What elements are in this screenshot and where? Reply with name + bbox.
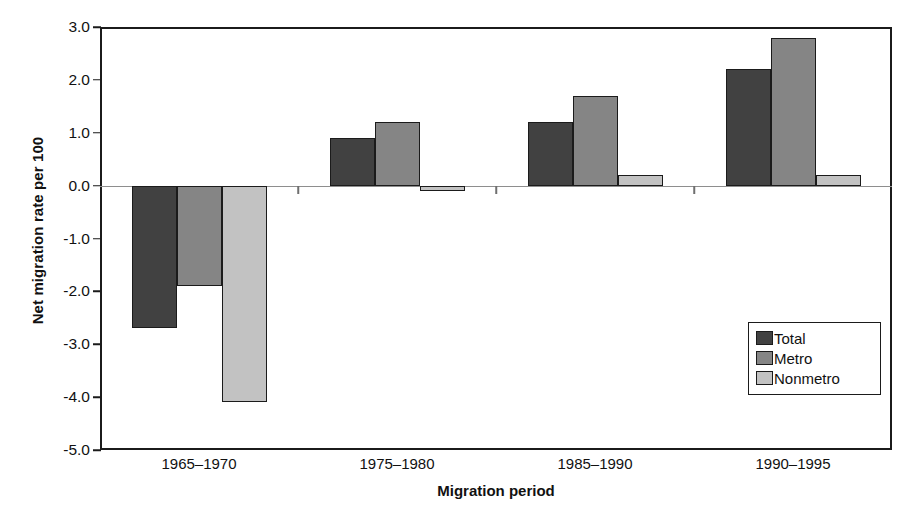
y-tick-label: 1.0	[30, 125, 90, 141]
x-axis-title: Migration period	[100, 482, 892, 499]
y-tick-mark	[93, 238, 101, 240]
x-tick-label: 1985–1990	[510, 455, 680, 472]
bar-total-2	[528, 122, 573, 185]
y-tick-label: -5.0	[30, 442, 90, 458]
y-tick-label: 3.0	[30, 19, 90, 35]
bar-nonmetro-0	[222, 186, 267, 403]
bar-metro-0	[177, 186, 222, 286]
legend-swatch-total	[756, 331, 773, 345]
y-tick-label: -3.0	[30, 337, 90, 353]
y-tick-mark	[93, 132, 101, 134]
x-tick-label: 1990–1995	[708, 455, 878, 472]
bar-metro-1	[375, 122, 420, 185]
y-tick-mark	[93, 344, 101, 346]
x-tick-mark	[297, 186, 299, 194]
legend: TotalMetroNonmetro	[748, 322, 881, 395]
bar-nonmetro-3	[816, 175, 861, 186]
y-tick-label: -2.0	[30, 284, 90, 300]
y-tick-mark	[93, 449, 101, 451]
legend-item: Nonmetro	[756, 368, 874, 388]
bar-nonmetro-1	[420, 186, 465, 191]
y-tick-label: 2.0	[30, 72, 90, 88]
y-tick-label: 0.0	[30, 178, 90, 194]
y-tick-mark	[93, 396, 101, 398]
legend-label: Total	[774, 331, 806, 346]
bar-metro-3	[771, 38, 816, 186]
bar-nonmetro-2	[618, 175, 663, 186]
legend-item: Total	[756, 328, 874, 348]
bar-total-3	[726, 69, 771, 185]
y-tick-mark	[93, 26, 101, 28]
y-tick-mark	[93, 291, 101, 293]
legend-label: Metro	[774, 351, 812, 366]
y-tick-label: -1.0	[30, 231, 90, 247]
y-tick-mark	[93, 79, 101, 81]
legend-label: Nonmetro	[774, 371, 840, 386]
figure-title	[120, 0, 800, 3]
x-tick-label: 1965–1970	[114, 455, 284, 472]
x-tick-mark	[495, 186, 497, 194]
bar-total-1	[330, 138, 375, 186]
chart-figure: Net migration rate per 100 3.02.01.00.0-…	[0, 0, 912, 508]
legend-swatch-nonmetro	[756, 371, 773, 385]
x-tick-label: 1975–1980	[312, 455, 482, 472]
legend-item: Metro	[756, 348, 874, 368]
bar-total-0	[132, 186, 177, 329]
legend-swatch-metro	[756, 351, 773, 365]
y-tick-label: -4.0	[30, 389, 90, 405]
x-tick-mark	[693, 186, 695, 194]
bar-metro-2	[573, 96, 618, 186]
